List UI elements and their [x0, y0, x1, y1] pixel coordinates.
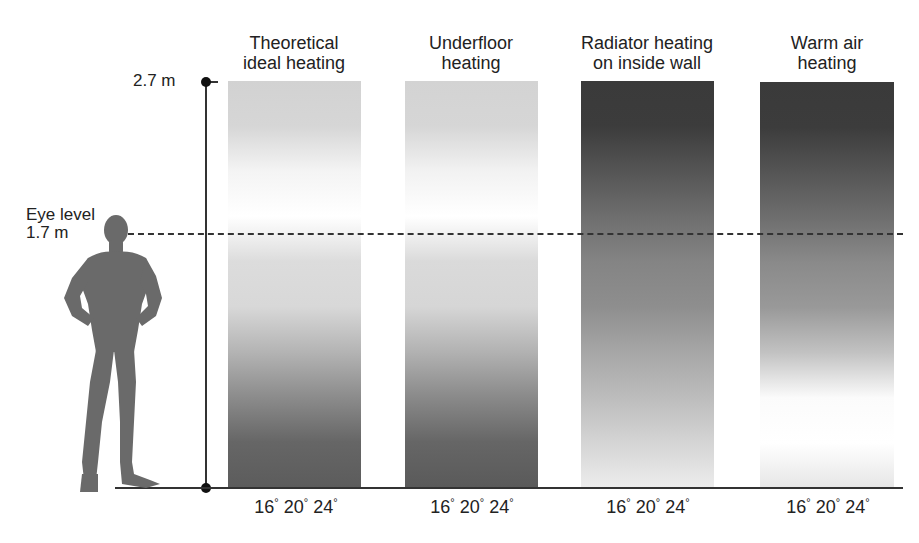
temp-24: 24 — [845, 497, 865, 517]
degree-symbol: ° — [836, 496, 840, 508]
degree-symbol: ° — [865, 496, 869, 508]
temp-24: 24 — [665, 497, 685, 517]
eye-level-dashed-line — [118, 233, 903, 235]
temp-20: 20 — [636, 497, 656, 517]
diagram-title: Heating — [0, 0, 919, 12]
degree-symbol: ° — [304, 496, 308, 508]
temperature-scale-radiator: 16° 20° 24° — [568, 497, 728, 518]
temp-16: 16 — [430, 497, 450, 517]
temp-20: 20 — [460, 497, 480, 517]
temp-16: 16 — [254, 497, 274, 517]
height-label-top: 2.7 m — [133, 71, 176, 91]
degree-symbol: ° — [509, 496, 513, 508]
degree-symbol: ° — [656, 496, 660, 508]
column-label-radiator: Radiator heating on inside wall — [557, 33, 737, 73]
person-silhouette-icon — [50, 212, 170, 494]
degree-symbol: ° — [480, 496, 484, 508]
temp-24: 24 — [313, 497, 333, 517]
column-label-warm-air: Warm air heating — [737, 33, 917, 73]
column-label-underfloor: Underfloor heating — [381, 33, 561, 73]
degree-symbol: ° — [806, 496, 810, 508]
temperature-gradient-bar-underfloor — [405, 81, 538, 487]
column-label-line1: Underfloor — [381, 33, 561, 53]
temp-20: 20 — [284, 497, 304, 517]
column-label-line1: Warm air — [737, 33, 917, 53]
temp-24: 24 — [489, 497, 509, 517]
temperature-gradient-bar-radiator — [581, 81, 714, 487]
degree-symbol: ° — [450, 496, 454, 508]
column-label-line1: Theoretical — [204, 33, 384, 53]
degree-symbol: ° — [626, 496, 630, 508]
column-label-ideal: Theoretical ideal heating — [204, 33, 384, 73]
temperature-scale-ideal: 16° 20° 24° — [216, 497, 376, 518]
floor-line — [115, 487, 903, 489]
column-label-line2: heating — [737, 53, 917, 73]
temperature-gradient-bar-warm-air — [760, 82, 894, 488]
temperature-scale-warm-air: 16° 20° 24° — [748, 497, 908, 518]
degree-symbol: ° — [333, 496, 337, 508]
degree-symbol: ° — [274, 496, 278, 508]
temperature-gradient-bar-ideal — [228, 81, 361, 487]
temp-16: 16 — [786, 497, 806, 517]
temp-20: 20 — [816, 497, 836, 517]
degree-symbol: ° — [685, 496, 689, 508]
column-label-line2: ideal heating — [204, 53, 384, 73]
column-label-line1: Radiator heating — [557, 33, 737, 53]
column-label-line2: on inside wall — [557, 53, 737, 73]
axis-top-dot — [201, 77, 211, 87]
temp-16: 16 — [606, 497, 626, 517]
temperature-scale-underfloor: 16° 20° 24° — [392, 497, 552, 518]
height-axis — [205, 82, 207, 488]
column-label-line2: heating — [381, 53, 561, 73]
